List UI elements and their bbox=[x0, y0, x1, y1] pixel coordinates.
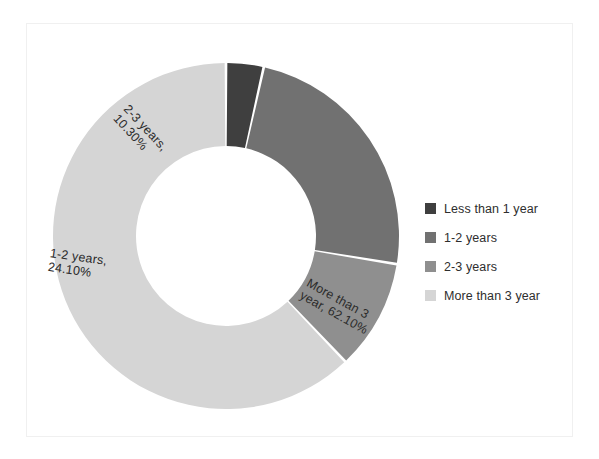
legend-swatch-icon bbox=[425, 290, 436, 301]
donut-slice-group bbox=[53, 63, 399, 409]
chart-frame: 2-3 years, 10.30% 1-2 years, 24.10% More… bbox=[26, 23, 573, 437]
legend-item-more-than-3-year[interactable]: More than 3 year bbox=[425, 281, 565, 310]
legend-item-label: Less than 1 year bbox=[444, 202, 538, 216]
donut-chart-plot-area: 2-3 years, 10.30% 1-2 years, 24.10% More… bbox=[27, 24, 574, 438]
legend-swatch-icon bbox=[425, 203, 436, 214]
legend-swatch-icon bbox=[425, 232, 436, 243]
donut-slice-1-2-years[interactable] bbox=[246, 67, 399, 262]
legend-item-2-3-years[interactable]: 2-3 years bbox=[425, 252, 565, 281]
legend-item-label: 2-3 years bbox=[444, 260, 497, 274]
legend-item-label: More than 3 year bbox=[444, 289, 540, 303]
legend-item-1-2-years[interactable]: 1-2 years bbox=[425, 223, 565, 252]
legend-item-less-than-1-year[interactable]: Less than 1 year bbox=[425, 194, 565, 223]
chart-legend: Less than 1 year1-2 years2-3 yearsMore t… bbox=[425, 194, 565, 310]
legend-item-label: 1-2 years bbox=[444, 231, 497, 245]
legend-swatch-icon bbox=[425, 261, 436, 272]
